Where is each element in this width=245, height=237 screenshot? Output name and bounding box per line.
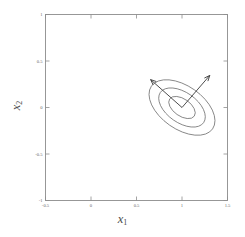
y-axis-label: x2 bbox=[9, 83, 24, 129]
y-tick-marks bbox=[46, 15, 50, 201]
figure-canvas: -0.5 0 0.5 1 1.5 1 0.5 0 -0.5 -1 x1 x2 bbox=[0, 0, 245, 237]
y-tick-marks-right bbox=[224, 15, 228, 201]
x-tick-label: 1.5 bbox=[225, 203, 231, 208]
y-tick-label: 0.5 bbox=[37, 59, 43, 64]
x-tick-labels: -0.5 0 0.5 1 1.5 bbox=[42, 203, 231, 208]
y-axis-label-text: x bbox=[9, 105, 23, 111]
y-tick-label: 0 bbox=[40, 105, 43, 110]
x-axis-label-subscript: 1 bbox=[123, 218, 127, 227]
x-tick-label: 0 bbox=[90, 203, 93, 208]
x-tick-marks bbox=[46, 197, 228, 201]
axes-frame bbox=[46, 15, 228, 201]
y-tick-label: -0.5 bbox=[35, 152, 43, 157]
x-tick-label: 0.5 bbox=[134, 203, 140, 208]
y-tick-label: 1 bbox=[40, 12, 43, 17]
y-axis-label-subscript: 2 bbox=[15, 101, 24, 105]
contour-plot: -0.5 0 0.5 1 1.5 1 0.5 0 -0.5 -1 bbox=[0, 0, 245, 237]
y-tick-labels: 1 0.5 0 -0.5 -1 bbox=[35, 12, 43, 203]
eigenvector-arrow-major bbox=[182, 75, 210, 107]
x-tick-label: -0.5 bbox=[42, 203, 50, 208]
eigenvector-arrow-minor-shaft bbox=[151, 80, 182, 108]
x-tick-label: 1 bbox=[181, 203, 184, 208]
eigenvector-arrow-minor bbox=[151, 80, 182, 108]
x-tick-marks-top bbox=[46, 15, 228, 19]
x-axis-label: x1 bbox=[0, 212, 245, 227]
eigenvector-arrow-major-shaft bbox=[182, 75, 210, 107]
